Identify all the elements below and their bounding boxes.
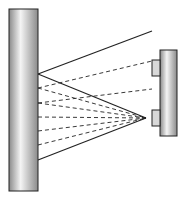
solid-ray [38, 74, 146, 118]
dashed-ray [38, 61, 152, 88]
right-pillar [160, 50, 177, 136]
solid-ray [38, 31, 152, 74]
left-pillar [9, 9, 38, 191]
dashed-ray [38, 117, 146, 118]
dashed-ray [38, 103, 146, 118]
detector-block [152, 60, 160, 76]
light-rays [38, 31, 152, 160]
optics-diagram [0, 0, 185, 204]
detector-blocks [152, 60, 160, 126]
dashed-ray [38, 89, 152, 103]
dashed-ray [38, 118, 146, 145]
detector-block [152, 110, 160, 126]
dashed-ray [38, 88, 146, 118]
solid-ray [38, 118, 146, 160]
